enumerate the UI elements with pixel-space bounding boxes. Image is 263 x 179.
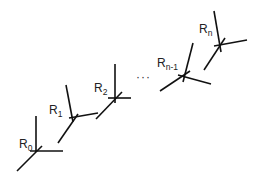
diagram-canvas: R0 R1 R2 ··· Rn-1 xyxy=(0,0,263,179)
r1-x-axis xyxy=(69,113,98,118)
frame-r2: R2 xyxy=(94,64,131,119)
r1-z-axis xyxy=(66,85,73,122)
r1-label: R1 xyxy=(49,103,63,119)
frame-r0: R0 xyxy=(17,116,63,171)
frame-rn: Rn xyxy=(199,11,247,70)
r0-label: R0 xyxy=(19,137,33,153)
ellipsis: ··· xyxy=(136,70,151,84)
frame-rn-1: Rn-1 xyxy=(157,43,211,91)
frame-chain-diagram: R0 R1 R2 ··· Rn-1 xyxy=(0,0,263,179)
rn-1-y-axis xyxy=(160,71,190,91)
rn-label: Rn xyxy=(199,22,213,38)
r2-y-axis xyxy=(96,92,122,119)
frame-r1: R1 xyxy=(49,85,98,143)
rn-1-label: Rn-1 xyxy=(157,56,178,72)
rn-y-axis xyxy=(204,38,225,70)
r2-label: R2 xyxy=(94,81,108,97)
